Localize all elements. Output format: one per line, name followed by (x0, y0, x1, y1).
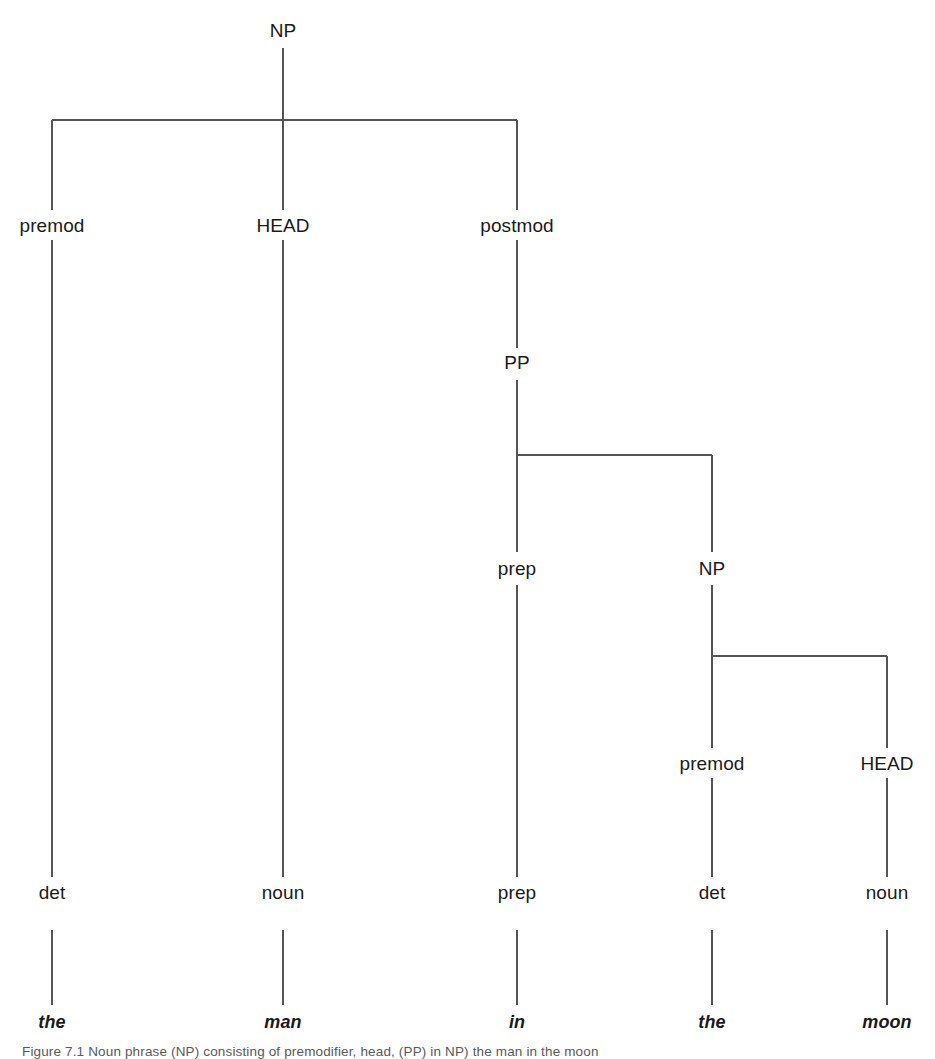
tree-node-label: NP (270, 21, 297, 40)
figure-caption: Figure 7.1 Noun phrase (NP) consisting o… (22, 1044, 922, 1059)
tree-node-label: HEAD (860, 754, 913, 773)
tree-terminal-word: moon (862, 1013, 911, 1031)
tree-terminal-word: the (698, 1013, 725, 1031)
tree-terminal-word: in (509, 1013, 525, 1031)
tree-node-label: noun (262, 883, 305, 902)
tree-node-label: det (39, 883, 66, 902)
tree-edges-svg (0, 0, 935, 1059)
figure-canvas: NPpremodHEADpostmodPPprepNPpremodHEADdet… (0, 0, 935, 1059)
tree-terminal-word: man (264, 1013, 301, 1031)
tree-node-label: PP (504, 353, 530, 372)
tree-node-label: premod (19, 216, 84, 235)
edge-group (52, 48, 887, 1005)
tree-node-label: prep (498, 883, 536, 902)
tree-node-label: NP (699, 559, 726, 578)
tree-node-label: prep (498, 559, 536, 578)
tree-node-label: det (699, 883, 726, 902)
tree-terminal-word: the (38, 1013, 65, 1031)
tree-node-label: noun (866, 883, 909, 902)
tree-node-label: postmod (480, 216, 554, 235)
tree-node-label: premod (679, 754, 744, 773)
tree-node-label: HEAD (256, 216, 309, 235)
